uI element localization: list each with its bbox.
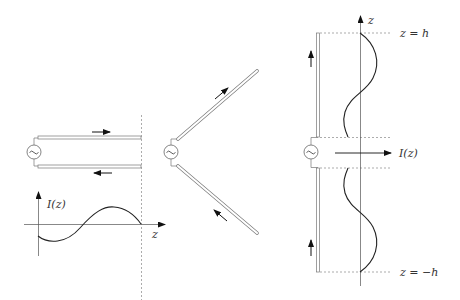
plot-label-I-of-z: I(z) (46, 198, 66, 211)
current-distribution-curve (38, 207, 141, 241)
label-z-equals-h: z = h (399, 27, 429, 40)
dipole-rod-upper (317, 33, 320, 137)
source-lead-top (171, 139, 177, 145)
ac-source-icon (27, 145, 41, 159)
conductor-lower (38, 165, 141, 168)
panel-transmission-line: I(z) z (24, 115, 165, 300)
current-arrow-lower (214, 210, 227, 221)
label-z-equals-minus-h: z = −h (399, 266, 438, 279)
arm-upper-fill (178, 71, 257, 139)
source-lead-bottom (311, 159, 318, 168)
dipole-rod-lower (317, 168, 320, 272)
source-lead-top (311, 138, 318, 146)
ac-source-icon (164, 145, 178, 159)
source-lead-bottom (34, 159, 38, 166)
arm-lower-fill (178, 166, 257, 233)
source-lead-bottom (171, 159, 177, 166)
z-axis-label: z (367, 14, 374, 27)
source-lead-top (34, 138, 38, 145)
conductor-upper (38, 136, 141, 139)
antenna-diagram: I(z) z (0, 0, 460, 300)
plot-axis-label-z: z (151, 228, 158, 241)
panel-dipole: z I(z) z = h z = −h (304, 14, 438, 286)
ac-source-icon (304, 145, 318, 159)
panel-v-antenna (164, 71, 257, 233)
current-label: I(z) (398, 147, 418, 160)
